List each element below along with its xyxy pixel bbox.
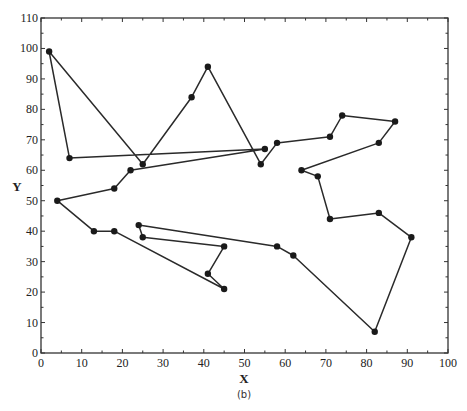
city-marker (127, 167, 133, 173)
y-tick-label: 30 (26, 255, 38, 269)
city-marker (298, 167, 304, 173)
city-marker (205, 271, 211, 277)
y-tick-label: 90 (26, 72, 38, 86)
city-marker (315, 173, 321, 179)
x-tick-label: 30 (157, 356, 169, 370)
x-axis-title: X (239, 371, 249, 386)
axis-ticks (41, 18, 448, 353)
city-marker (376, 210, 382, 216)
city-marker (91, 228, 97, 234)
city-marker (274, 243, 280, 249)
x-tick-label: 20 (116, 356, 128, 370)
x-tick-label: 40 (198, 356, 210, 370)
city-marker (111, 228, 117, 234)
city-marker (46, 48, 52, 54)
city-marker (372, 328, 378, 334)
city-marker (327, 216, 333, 222)
city-marker (274, 140, 280, 146)
y-axis-title: Y (12, 179, 22, 194)
plot-border (41, 18, 448, 353)
x-tick-label: 80 (361, 356, 373, 370)
plot-frame (41, 18, 448, 353)
x-tick-label: 60 (279, 356, 291, 370)
tick-labels: 0102030405060708090100010203040506070809… (20, 11, 457, 370)
city-marker (135, 222, 141, 228)
city-marker (258, 161, 264, 167)
city-marker (327, 134, 333, 140)
y-tick-label: 0 (32, 346, 38, 360)
city-marker (408, 234, 414, 240)
x-tick-label: 0 (38, 356, 44, 370)
y-tick-label: 110 (20, 11, 38, 25)
y-tick-label: 20 (26, 285, 38, 299)
city-marker (376, 140, 382, 146)
y-tick-label: 60 (26, 163, 38, 177)
y-tick-label: 80 (26, 102, 38, 116)
city-marker (221, 243, 227, 249)
data-series (46, 48, 415, 335)
x-tick-label: 70 (320, 356, 332, 370)
city-marker (205, 64, 211, 70)
y-tick-label: 100 (20, 41, 38, 55)
x-tick-label: 10 (76, 356, 88, 370)
city-marker (392, 118, 398, 124)
tour-path (49, 52, 411, 332)
subfigure-label: (b) (237, 389, 251, 400)
city-marker (188, 94, 194, 100)
city-marker (140, 161, 146, 167)
city-marker (290, 252, 296, 258)
city-marker (262, 146, 268, 152)
tour-chart: 0102030405060708090100010203040506070809… (0, 0, 467, 411)
y-tick-label: 10 (26, 316, 38, 330)
city-marker (111, 185, 117, 191)
city-marker (221, 286, 227, 292)
x-tick-label: 50 (239, 356, 251, 370)
y-tick-label: 70 (26, 133, 38, 147)
y-tick-label: 40 (26, 224, 38, 238)
y-tick-label: 50 (26, 194, 38, 208)
city-marker (140, 234, 146, 240)
x-tick-label: 100 (439, 356, 457, 370)
x-tick-label: 90 (401, 356, 413, 370)
city-marker (339, 112, 345, 118)
city-marker (54, 198, 60, 204)
city-marker (66, 155, 72, 161)
